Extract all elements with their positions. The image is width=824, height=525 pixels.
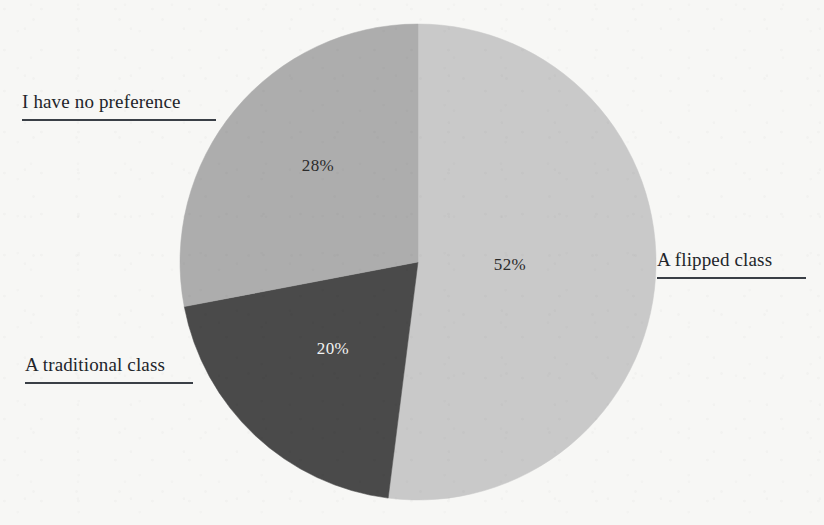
callout-label-flipped: A flipped class	[657, 248, 806, 272]
callout-label-no-preference: I have no preference	[22, 90, 216, 114]
slice-value-flipped: 52%	[494, 255, 526, 275]
pie-slice	[180, 24, 418, 307]
callout-rule-no-preference	[22, 119, 216, 121]
callout-rule-traditional	[25, 382, 193, 384]
pie-slice-group	[180, 24, 656, 500]
slice-value-no-preference: 28%	[302, 156, 334, 176]
callout-no-preference: I have no preference	[22, 90, 216, 121]
callout-label-traditional: A traditional class	[25, 353, 193, 377]
pie-chart-figure: 52% 20% 28% I have no preference A tradi…	[0, 0, 824, 525]
callout-rule-flipped	[657, 277, 806, 279]
callout-flipped: A flipped class	[657, 248, 806, 279]
slice-value-traditional: 20%	[317, 339, 349, 359]
callout-traditional: A traditional class	[25, 353, 193, 384]
